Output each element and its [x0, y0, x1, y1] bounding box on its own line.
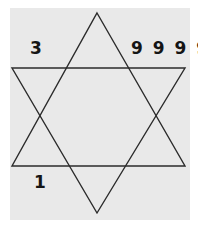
hexagram-diagram — [0, 0, 198, 228]
figure-canvas: 3 9 9 9 9 1 — [0, 0, 198, 228]
label-upper-left: 3 — [30, 40, 42, 57]
label-lower-left: 1 — [34, 174, 46, 191]
label-upper-right: 9 9 9 9 — [131, 40, 198, 57]
upward-triangle — [12, 13, 185, 166]
